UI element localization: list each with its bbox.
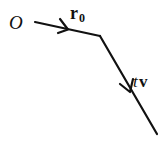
- tv-label: tv: [133, 72, 148, 91]
- tv-vector-line: [100, 36, 157, 134]
- r0-label: r0: [70, 3, 85, 25]
- r0-arrowhead-icon: [58, 19, 68, 33]
- origin-label: O: [9, 12, 23, 33]
- vector-diagram: O r0 tv: [0, 0, 164, 149]
